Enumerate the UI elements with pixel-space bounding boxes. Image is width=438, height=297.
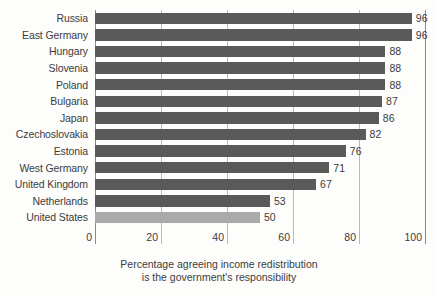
- category-label: Poland: [56, 79, 88, 90]
- category-label: Russia: [57, 13, 89, 24]
- x-tick-label-80: 80: [344, 232, 359, 243]
- bar[interactable]: [95, 13, 412, 24]
- bar[interactable]: [95, 162, 329, 173]
- bar[interactable]: [95, 212, 260, 223]
- category-label: Bulgaria: [50, 96, 88, 107]
- bar-value-label: 71: [333, 162, 345, 173]
- x-tick-label-60: 60: [278, 232, 293, 243]
- bar-row: Hungary88: [95, 43, 425, 60]
- bar-value-label: 53: [274, 196, 286, 207]
- category-label: Hungary: [49, 46, 88, 57]
- bar-value-label: 96: [416, 13, 428, 24]
- category-label: Slovenia: [49, 63, 88, 74]
- bar-value-label: 50: [264, 212, 276, 223]
- bar-value-label: 88: [389, 46, 401, 57]
- gridline-100: [425, 10, 426, 244]
- category-label: Czechoslovakia: [16, 129, 88, 140]
- category-label: Japan: [60, 113, 88, 124]
- bar-value-label: 88: [389, 79, 401, 90]
- bar[interactable]: [95, 46, 385, 57]
- bar-value-label: 82: [370, 129, 382, 140]
- bar-row: Estonia76: [95, 143, 425, 160]
- bar-row: United Kingdom67: [95, 176, 425, 193]
- bar[interactable]: [95, 145, 346, 156]
- plot-area: Russia96East Germany96Hungary88Slovenia8…: [95, 10, 425, 232]
- category-label: Netherlands: [32, 196, 88, 207]
- bar-row: Czechoslovakia82: [95, 126, 425, 143]
- bar[interactable]: [95, 195, 270, 206]
- x-tick-label-20: 20: [146, 232, 161, 243]
- bar-row: United States50: [95, 209, 425, 226]
- bar-value-label: 88: [389, 63, 401, 74]
- category-label: Estonia: [54, 146, 88, 157]
- bar[interactable]: [95, 179, 316, 190]
- bar-value-label: 86: [383, 113, 395, 124]
- category-label: West Germany: [19, 162, 88, 173]
- chart-caption: Percentage agreeing income redistributio…: [0, 258, 438, 284]
- bar-row: Japan86: [95, 110, 425, 127]
- bar-row: West Germany71: [95, 159, 425, 176]
- bar-value-label: 96: [416, 30, 428, 41]
- x-tick-label-40: 40: [212, 232, 227, 243]
- caption-line-2: is the government's responsibility: [0, 271, 438, 284]
- bar-row: East Germany96: [95, 27, 425, 44]
- bar[interactable]: [95, 29, 412, 40]
- bar-row: Slovenia88: [95, 60, 425, 77]
- category-label: United Kingdom: [15, 179, 88, 190]
- x-tick-label-0: 0: [86, 232, 95, 243]
- bar-chart: Russia96East Germany96Hungary88Slovenia8…: [0, 0, 438, 297]
- bar-row: Bulgaria87: [95, 93, 425, 110]
- x-tick-label-100: 100: [404, 232, 425, 243]
- bar-value-label: 76: [350, 146, 362, 157]
- bar[interactable]: [95, 62, 385, 73]
- bar-value-label: 67: [320, 179, 332, 190]
- x-axis: 020406080100: [95, 232, 425, 248]
- category-label: East Germany: [22, 30, 88, 41]
- bar-row: Poland88: [95, 76, 425, 93]
- bar-row: Russia96: [95, 10, 425, 27]
- category-label: United States: [26, 212, 88, 223]
- caption-line-1: Percentage agreeing income redistributio…: [0, 258, 438, 271]
- bar-value-label: 87: [386, 96, 398, 107]
- bar[interactable]: [95, 112, 379, 123]
- bar[interactable]: [95, 129, 366, 140]
- bar[interactable]: [95, 79, 385, 90]
- bar-row: Netherlands53: [95, 193, 425, 210]
- bar[interactable]: [95, 96, 382, 107]
